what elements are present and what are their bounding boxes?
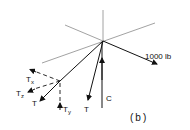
tx-label: Tx — [26, 75, 34, 85]
tz-arrow — [28, 89, 35, 92]
member-to-joint — [60, 41, 103, 81]
component-lines — [34, 71, 60, 101]
t-main-label: T — [84, 105, 89, 114]
axis-diagonal-falling — [65, 25, 103, 41]
tension-main-arrow — [88, 41, 103, 100]
tz-label: Tz — [16, 89, 24, 99]
figure-label: (b) — [130, 112, 148, 123]
t-left-label: T — [32, 99, 37, 108]
reference-axes — [42, 10, 155, 63]
ty-label: Ty — [63, 105, 71, 115]
tx-arrow — [30, 70, 36, 73]
free-body-diagram: 1000 lb Tx Tz T Ty T C (b) — [0, 0, 190, 130]
load-label: 1000 lb — [145, 52, 172, 61]
force-vectors — [40, 41, 157, 108]
tx-dashed — [34, 71, 60, 81]
c-label: C — [106, 94, 112, 103]
